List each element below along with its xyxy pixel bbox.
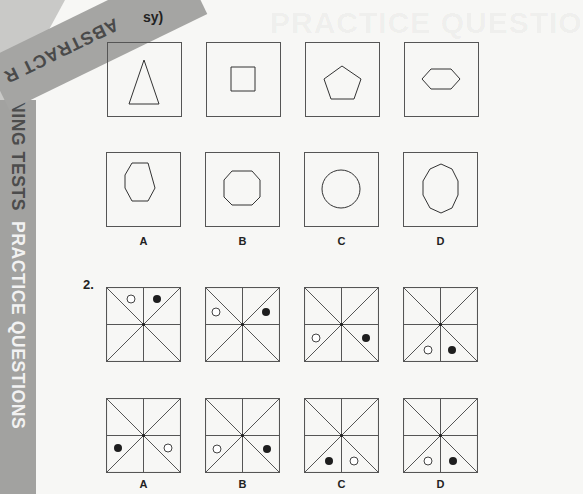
- option-c-figure: [304, 152, 379, 227]
- sequence-figure-square: [206, 42, 281, 117]
- sequence-grid-2: [205, 287, 280, 362]
- option-label-a: A: [106, 235, 181, 247]
- option-d-figure: [403, 152, 478, 227]
- option-a-grid: [106, 398, 181, 473]
- option-label-d: D: [403, 235, 478, 247]
- sequence-grid-4: [403, 287, 478, 362]
- option-b-figure: [205, 152, 280, 227]
- option-a-figure: [106, 152, 181, 227]
- option-label-c: C: [304, 478, 379, 490]
- sequence-figure-triangle: [107, 42, 182, 117]
- sequence-figure-pentagon: [305, 42, 380, 117]
- option-label-a: A: [106, 478, 181, 490]
- sequence-figure-hexagon: [404, 42, 479, 117]
- question-heading-fragment: sy): [143, 9, 163, 25]
- option-d-grid: [403, 398, 478, 473]
- sequence-grid-3: [304, 287, 379, 362]
- option-label-b: B: [205, 478, 280, 490]
- sequence-grid-1: [106, 287, 181, 362]
- option-label-d: D: [403, 478, 478, 490]
- option-b-grid: [205, 398, 280, 473]
- side-strip-text: NING TESTSPRACTICE QUESTIONS: [0, 100, 36, 429]
- bleed-through-text: PRACTICE QUESTIO: [270, 6, 583, 40]
- option-c-grid: [304, 398, 379, 473]
- option-label-c: C: [304, 235, 379, 247]
- option-label-b: B: [205, 235, 280, 247]
- side-strip: NING TESTSPRACTICE QUESTIONS: [0, 100, 36, 494]
- question-2-number: 2.: [83, 277, 94, 292]
- side-strip-part1: NING TESTS: [8, 100, 28, 211]
- side-strip-part2: PRACTICE QUESTIONS: [8, 221, 28, 429]
